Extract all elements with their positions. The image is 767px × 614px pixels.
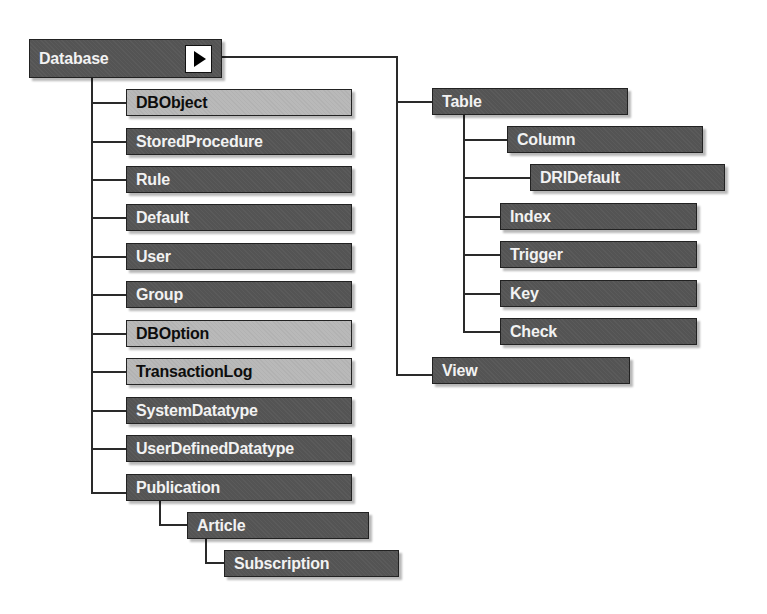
connector-column (463, 139, 507, 141)
connector-key (463, 293, 500, 295)
node-key[interactable]: Key (500, 280, 697, 307)
node-transactionlog[interactable]: TransactionLog (126, 358, 352, 385)
connector-rule (91, 179, 126, 181)
connector-subscription (205, 562, 224, 564)
node-label: StoredProcedure (136, 133, 263, 150)
play-arrow-icon (194, 51, 206, 67)
connector-default (91, 217, 126, 219)
node-view[interactable]: View (432, 357, 630, 384)
node-systemdatatype[interactable]: SystemDatatype (126, 397, 352, 424)
connector-index (463, 216, 500, 218)
node-label: Article (197, 517, 245, 534)
connector-storedprocedure (91, 141, 126, 143)
connector-check (463, 331, 500, 333)
connector-table-trunk (463, 115, 465, 333)
connector-group (91, 294, 126, 296)
node-label: Check (510, 323, 557, 340)
node-article[interactable]: Article (187, 512, 369, 539)
node-publication[interactable]: Publication (126, 474, 352, 501)
node-dridefault[interactable]: DRIDefault (530, 164, 725, 191)
node-dbobject[interactable]: DBObject (126, 89, 352, 116)
node-label: Subscription (234, 555, 329, 572)
node-rule[interactable]: Rule (126, 166, 352, 193)
node-label: DBOption (136, 325, 209, 342)
connector-root-to-collections (222, 56, 398, 58)
connector-article-trunk (205, 539, 207, 563)
connector-userdefineddatatype (91, 448, 126, 450)
node-label: UserDefinedDatatype (136, 440, 294, 457)
node-label: Publication (136, 479, 220, 496)
node-check[interactable]: Check (500, 318, 697, 345)
node-label: Table (442, 93, 482, 110)
connector-table (396, 101, 432, 103)
connector-systemdatatype (91, 410, 126, 412)
connector-view (396, 374, 432, 376)
node-default[interactable]: Default (126, 204, 352, 231)
node-label: Default (136, 209, 189, 226)
connector-collections-trunk (396, 56, 398, 376)
connector-publication-trunk (159, 501, 161, 525)
connector-article (159, 524, 187, 526)
node-label: Column (517, 131, 575, 148)
node-label: DBObject (136, 94, 207, 111)
node-label: User (136, 248, 171, 265)
node-label: Database (39, 50, 109, 67)
connector-dbobject (91, 102, 126, 104)
expand-button[interactable] (185, 45, 212, 73)
node-trigger[interactable]: Trigger (500, 241, 697, 268)
node-group[interactable]: Group (126, 281, 352, 308)
connector-transactionlog (91, 371, 126, 373)
connector-user (91, 256, 126, 258)
node-label: Rule (136, 171, 170, 188)
node-user[interactable]: User (126, 243, 352, 270)
connector-trigger (463, 254, 500, 256)
node-label: SystemDatatype (136, 402, 258, 419)
node-label: View (442, 362, 477, 379)
node-index[interactable]: Index (500, 203, 697, 230)
node-subscription[interactable]: Subscription (224, 550, 399, 577)
connector-dridefault (463, 177, 530, 179)
node-storedprocedure[interactable]: StoredProcedure (126, 128, 352, 155)
node-dboption[interactable]: DBOption (126, 320, 352, 347)
node-label: TransactionLog (136, 363, 252, 380)
node-column[interactable]: Column (507, 126, 703, 153)
node-label: Trigger (510, 246, 563, 263)
node-database[interactable]: Database (29, 39, 222, 78)
node-userdefineddatatype[interactable]: UserDefinedDatatype (126, 435, 352, 462)
node-label: DRIDefault (540, 169, 620, 186)
node-label: Key (510, 285, 539, 302)
node-label: Index (510, 208, 551, 225)
connector-publication (91, 492, 126, 494)
connector-dboption (91, 333, 126, 335)
node-label: Group (136, 286, 183, 303)
node-table[interactable]: Table (432, 88, 628, 115)
